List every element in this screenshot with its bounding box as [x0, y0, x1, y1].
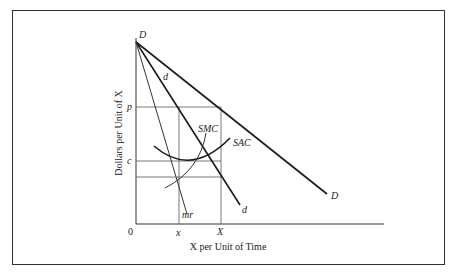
- label-x-small: x: [176, 228, 180, 238]
- label-mr: mr: [182, 210, 193, 220]
- y-axis-label: Dollars per Unit of X: [113, 90, 124, 176]
- label-smc: SMC: [198, 124, 218, 134]
- market-demand-line-D: [136, 42, 327, 194]
- label-origin: 0: [128, 227, 133, 237]
- label-D-end: D: [331, 191, 338, 201]
- label-D-top: D: [139, 30, 146, 40]
- label-d-top: d: [163, 72, 168, 82]
- label-sac: SAC: [233, 138, 251, 148]
- firm-demand-line-d: [136, 42, 240, 205]
- label-p: p: [127, 102, 132, 112]
- label-c: c: [127, 156, 131, 166]
- x-axis-label: X per Unit of Time: [190, 241, 267, 252]
- diagram-canvas: [0, 0, 453, 276]
- label-d-end: d: [242, 205, 247, 215]
- label-X-big: X: [217, 227, 223, 237]
